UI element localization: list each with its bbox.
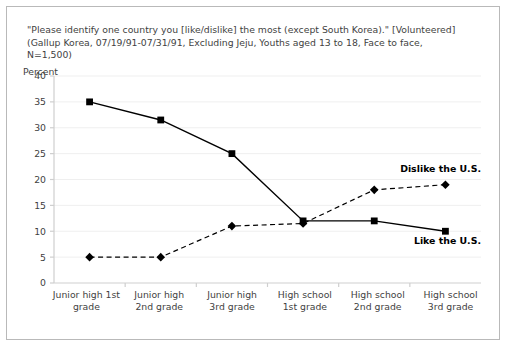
y-tick-label: 25 [34, 148, 46, 159]
y-tick-label: 20 [34, 174, 46, 185]
plot-svg: 0510152025303540 Dislike the U.S. Like t… [23, 72, 485, 287]
title-line-3: N=1,500) [27, 49, 485, 62]
x-axis-tick-marks [125, 283, 410, 287]
title-line-2: (Gallup Korea, 07/19/91-07/31/91, Exclud… [27, 37, 485, 50]
x-axis-category-labels: Junior high 1stgradeJunior high2nd grade… [50, 289, 487, 329]
y-tick-label: 5 [40, 252, 46, 263]
data-point-marker [229, 150, 236, 157]
chart-title: "Please identify one country you [like/d… [27, 24, 485, 62]
data-point-marker [85, 253, 94, 262]
series-line-like [90, 102, 446, 231]
data-point-marker [157, 117, 164, 124]
data-point-marker [86, 98, 93, 105]
chart-figure: "Please identify one country you [like/d… [0, 0, 508, 347]
y-axis-ticks: 0510152025303540 [34, 72, 54, 287]
x-category-label: Junior high 1stgrade [50, 289, 123, 329]
title-line-1: "Please identify one country you [like/d… [27, 24, 485, 37]
y-tick-label: 35 [34, 96, 46, 107]
y-tick-label: 30 [34, 122, 46, 133]
data-point-marker [156, 253, 165, 262]
x-category-label: High school3rd grade [414, 289, 487, 329]
data-point-marker [370, 186, 379, 195]
x-category-label: Junior high2nd grade [123, 289, 196, 329]
x-category-label: High school1st grade [268, 289, 341, 329]
x-category-label: High school2nd grade [341, 289, 414, 329]
y-tick-label: 10 [34, 226, 46, 237]
data-point-marker [442, 228, 449, 235]
data-point-marker [228, 222, 237, 231]
data-point-marker [441, 180, 450, 189]
series-line-dislike [90, 185, 446, 257]
series-label-like: Like the U.S. [414, 235, 481, 246]
plot-area: 0510152025303540 Dislike the U.S. Like t… [23, 72, 485, 287]
series-label-dislike: Dislike the U.S. [400, 163, 481, 174]
y-tick-label: 40 [34, 72, 46, 81]
data-point-marker [371, 218, 378, 225]
y-tick-label: 15 [34, 200, 46, 211]
x-category-label: Junior high3rd grade [196, 289, 269, 329]
y-tick-label: 0 [40, 277, 46, 287]
